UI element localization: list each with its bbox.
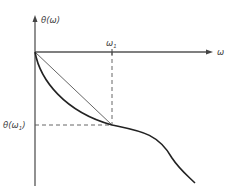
y-axis-arrow-icon: [33, 15, 38, 22]
phase-curve: [35, 52, 195, 183]
x-axis-label: ω: [217, 47, 224, 57]
phase-diagram: θ(ω) ω ω1 θ(ω1): [0, 0, 232, 193]
theta-omega1-label: θ(ω1): [3, 120, 25, 131]
y-axis-label: θ(ω): [41, 15, 60, 25]
x-axis-arrow-icon: [206, 50, 213, 55]
chord-line: [35, 52, 112, 125]
omega1-label: ω1: [106, 38, 117, 49]
